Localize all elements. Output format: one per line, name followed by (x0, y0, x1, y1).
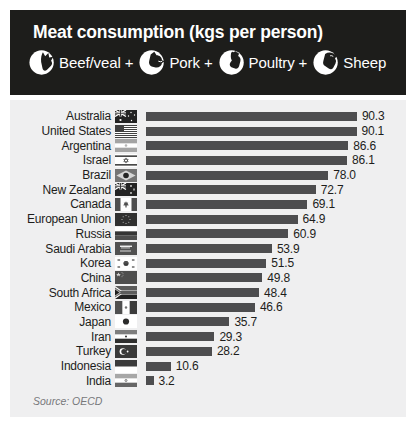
bar-row: South Africa48.4 (10, 285, 406, 300)
bar-row: Indonesia10.6 (10, 359, 406, 374)
value-label: 90.3 (362, 109, 385, 123)
eu-flag-icon (115, 213, 137, 226)
za-flag-icon (115, 286, 137, 299)
sa-flag-icon (115, 242, 137, 255)
poultry-icon (219, 49, 249, 76)
bar-row: Canada69.1 (10, 197, 406, 212)
bar (146, 127, 357, 136)
infographic-header: Meat consumption (kgs per person) Beef/v… (10, 10, 406, 95)
cn-flag-icon (115, 271, 137, 284)
bar (146, 112, 357, 121)
ru-flag-icon (115, 227, 137, 240)
bar-row: Saudi Arabia53.9 (10, 241, 406, 256)
value-label: 86.1 (352, 153, 375, 167)
bar (146, 273, 262, 282)
legend-label: Poultry + (249, 54, 308, 71)
jp-flag-icon (115, 315, 137, 328)
ir-flag-icon (115, 330, 137, 343)
bar-row: Australia90.3 (10, 109, 406, 124)
ar-flag-icon (115, 139, 137, 152)
value-label: 3.2 (159, 374, 175, 388)
mx-flag-icon (115, 301, 137, 314)
legend-item-poultry: Poultry + (219, 49, 314, 76)
country-label: Indonesia (10, 359, 111, 373)
country-label: New Zealand (10, 183, 111, 197)
bar-row: Korea51.5 (10, 256, 406, 271)
bar-row: Russia60.9 (10, 227, 406, 242)
value-label: 46.6 (260, 300, 283, 314)
country-label: United States (10, 124, 111, 138)
bar (146, 185, 316, 194)
bar-row: Argentina86.6 (10, 138, 406, 153)
bar-row: Israel86.1 (10, 153, 406, 168)
bar-row: China49.8 (10, 271, 406, 286)
country-label: Brazil (10, 168, 111, 182)
legend-item-beef: Beef/veal + (29, 49, 139, 76)
country-label: Canada (10, 197, 111, 211)
bar (146, 288, 259, 297)
bar (146, 244, 272, 253)
value-label: 90.1 (362, 124, 385, 138)
country-label: Iran (10, 330, 111, 344)
chart-title: Meat consumption (kgs per person) (33, 22, 406, 43)
bar-row: Japan35.7 (10, 315, 406, 330)
country-label: South Africa (10, 286, 111, 300)
country-label: Argentina (10, 139, 111, 153)
value-label: 72.7 (321, 183, 344, 197)
bar (146, 171, 328, 180)
in-flag-icon (115, 374, 137, 387)
bar (146, 215, 298, 224)
bar-row: India3.2 (10, 373, 406, 388)
legend: Beef/veal +Pork +Poultry +Sheep (29, 49, 406, 76)
bar-row: New Zealand72.7 (10, 182, 406, 197)
bar-row: United States90.1 (10, 124, 406, 139)
value-label: 69.1 (312, 197, 335, 211)
country-label: Turkey (10, 344, 111, 358)
br-flag-icon (115, 169, 137, 182)
country-label: China (10, 271, 111, 285)
bar (146, 376, 154, 385)
bar-row: Turkey28.2 (10, 344, 406, 359)
tr-flag-icon (115, 345, 137, 358)
source-note: Source: OECD (33, 395, 406, 407)
value-label: 49.8 (267, 271, 290, 285)
bar (146, 317, 229, 326)
bar (146, 229, 288, 238)
ca-flag-icon (115, 198, 137, 211)
value-label: 35.7 (234, 315, 257, 329)
bar-row: Mexico46.6 (10, 300, 406, 315)
bar (146, 259, 266, 268)
country-label: Australia (10, 109, 111, 123)
bar-row: European Union64.9 (10, 212, 406, 227)
bar-row: Brazil78.0 (10, 168, 406, 183)
value-label: 29.3 (219, 330, 242, 344)
bar (146, 200, 307, 209)
bar (146, 332, 214, 341)
il-flag-icon (115, 154, 137, 167)
bar (146, 362, 171, 371)
value-label: 51.5 (271, 256, 294, 270)
value-label: 60.9 (293, 227, 316, 241)
country-label: Russia (10, 227, 111, 241)
country-label: Israel (10, 153, 111, 167)
value-label: 48.4 (264, 286, 287, 300)
au-flag-icon (115, 110, 137, 123)
id-flag-icon (115, 360, 137, 373)
beef-icon (29, 49, 59, 76)
value-label: 53.9 (277, 242, 300, 256)
pork-icon (139, 49, 169, 76)
country-label: Korea (10, 256, 111, 270)
value-label: 10.6 (176, 359, 199, 373)
nz-flag-icon (115, 183, 137, 196)
kr-flag-icon (115, 257, 137, 270)
legend-label: Sheep (343, 54, 386, 71)
us-flag-icon (115, 125, 137, 138)
bar-row: Iran29.3 (10, 329, 406, 344)
infographic: Meat consumption (kgs per person) Beef/v… (0, 0, 416, 428)
legend-item-pork: Pork + (139, 49, 218, 76)
bar (146, 347, 212, 356)
country-label: European Union (10, 212, 111, 226)
chart-panel: Australia90.3United States90.1Argentina8… (10, 100, 406, 417)
legend-item-sheep: Sheep (313, 49, 392, 76)
country-label: India (10, 374, 111, 388)
